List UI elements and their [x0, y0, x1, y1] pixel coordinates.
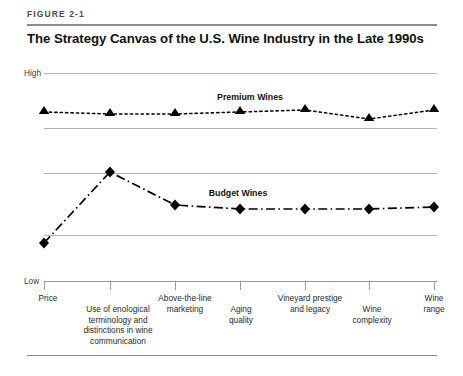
x-tick-label-enological-terminology: Use of enological terminology and distin…	[76, 304, 160, 346]
x-tick-label-wine-range: Wine range	[414, 293, 454, 314]
budget-wines-series-label: Budget Wines	[209, 188, 268, 198]
x-tick-label-above-the-line-marketing: Above-the-line marketing	[153, 293, 217, 314]
premium-wines-markers	[39, 104, 439, 121]
figure-card: FIGURE 2-1 The Strategy Canvas of the U.…	[0, 0, 463, 376]
budget-wines-markers	[39, 167, 439, 249]
x-tick-label-vineyard-prestige: Vineyard prestige and legacy	[271, 293, 349, 314]
x-tick-label-price: Price	[20, 293, 76, 304]
premium-wines-series-label: Premium Wines	[217, 92, 283, 102]
strategy-canvas-chart: High Low P	[0, 0, 463, 376]
x-axis-tick	[110, 281, 111, 290]
x-axis-tick	[305, 281, 306, 290]
x-tick-label-wine-complexity: Wine complexity	[346, 304, 398, 325]
x-axis-tick	[44, 281, 45, 290]
footer-divider	[27, 355, 437, 356]
x-axis-tick	[175, 281, 176, 290]
x-tick-label-aging-quality: Aging quality	[219, 304, 263, 325]
x-axis-tick	[369, 281, 370, 290]
x-axis-tick	[434, 281, 435, 290]
x-axis-tick	[240, 281, 241, 290]
